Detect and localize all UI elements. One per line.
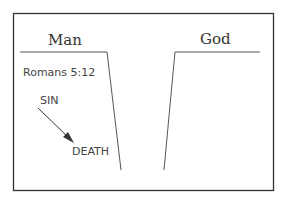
god-heading: God [200,30,231,48]
god-cliff [164,52,260,170]
sin-to-death-arrow-line [38,108,70,139]
scripture-reference: Romans 5:12 [23,66,95,79]
sin-label: SIN [40,94,58,107]
man-heading: Man [48,31,82,49]
death-label: DEATH [72,145,109,158]
